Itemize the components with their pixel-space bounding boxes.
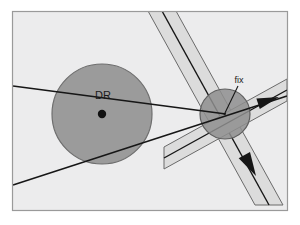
diagram-stage: DR fix	[0, 0, 300, 225]
dr-center-dot	[98, 110, 106, 118]
navigation-fix-diagram: DR fix	[0, 0, 300, 225]
dr-label: DR	[95, 89, 111, 101]
fix-label: fix	[235, 75, 245, 85]
